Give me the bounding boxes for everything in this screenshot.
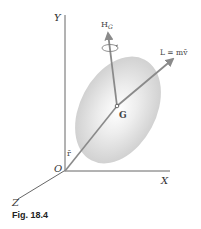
position-vector-label: r̄	[67, 149, 71, 158]
linear-momentum-label: L = mv̄	[160, 48, 188, 57]
origin-label: O	[54, 163, 62, 174]
rigid-body-momentum-diagram: Y X Z O G r̄ HG L = mv̄ Fig. 18.4	[0, 0, 201, 229]
figure-caption: Fig. 18.4	[12, 210, 48, 220]
angular-momentum-label: HG	[101, 20, 113, 30]
angular-momentum-subscript: G	[108, 23, 113, 30]
x-axis-label: X	[160, 175, 169, 186]
y-axis-label: Y	[54, 12, 62, 23]
z-axis-label: Z	[11, 197, 20, 208]
z-axis	[18, 171, 64, 199]
angular-momentum-symbol: H	[101, 20, 108, 29]
center-of-mass-label: G	[119, 110, 127, 120]
center-of-mass-point	[115, 104, 119, 108]
